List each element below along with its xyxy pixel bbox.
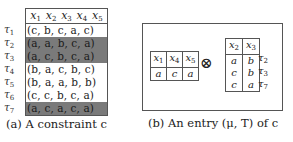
- constraint-row: (c, b, c, a, c): [26, 24, 107, 37]
- t-value: c: [226, 79, 243, 92]
- t-table: x2x3 abcbca: [225, 38, 260, 92]
- tuple-label: τ6: [4, 88, 14, 101]
- mu-column-header: x4: [167, 52, 183, 68]
- mu-value: c: [167, 68, 183, 81]
- tensor-product-icon: ⊗: [200, 56, 213, 71]
- t-value: b: [243, 67, 260, 79]
- column-header: x2: [46, 9, 57, 23]
- tuple-label: τ3: [258, 65, 268, 77]
- caption-a: (a) A constraint c: [6, 117, 107, 131]
- column-header: x3: [61, 9, 72, 23]
- tuple-label: τ1: [4, 23, 14, 36]
- constraint-row: (a, a, b, c, a): [26, 37, 107, 50]
- column-header: x5: [92, 9, 103, 23]
- constraint-row: (b, a, c, b, c): [26, 63, 107, 76]
- t-row: cb: [226, 67, 260, 79]
- constraint-row: (a, c, a, c, a): [26, 102, 107, 115]
- constraint-table-header: x1x2x3x4x5: [26, 9, 107, 24]
- mu-value: a: [151, 68, 167, 81]
- tuple-label: τ2: [4, 36, 14, 49]
- constraint-row: (b, a, a, b, b): [26, 76, 107, 89]
- t-column-header: x3: [243, 39, 260, 55]
- t-value: c: [226, 67, 243, 79]
- t-row: ab: [226, 55, 260, 68]
- tuple-label: τ3: [4, 49, 14, 62]
- tuple-label: τ7: [4, 101, 14, 114]
- tuple-label: τ4: [4, 62, 14, 75]
- mu-value: a: [183, 68, 199, 81]
- mu-table: x1x4x5 aca: [150, 51, 199, 81]
- caption-b: (b) An entry (μ, T) of c: [148, 116, 278, 130]
- column-header: x1: [30, 9, 41, 23]
- mu-column-header: x1: [151, 52, 167, 68]
- tuple-label: τ5: [4, 75, 14, 88]
- constraint-row: (c, c, b, c, a): [26, 89, 107, 102]
- tuple-label: τ2: [258, 52, 268, 64]
- t-value: b: [243, 55, 260, 68]
- tuple-label: τ7: [258, 78, 268, 90]
- column-header: x4: [77, 9, 88, 23]
- t-row: ca: [226, 79, 260, 92]
- entry-box: x1x4x5 aca ⊗ x2x3 abcbca τ2τ3τ7: [142, 23, 283, 111]
- mu-column-header: x5: [183, 52, 199, 68]
- t-value: a: [226, 55, 243, 68]
- constraint-table: x1x2x3x4x5 (c, b, c, a, c)(a, a, b, c, a…: [25, 8, 108, 116]
- t-value: a: [243, 79, 260, 92]
- t-column-header: x2: [226, 39, 243, 55]
- constraint-row: (a, c, b, c, a): [26, 50, 107, 63]
